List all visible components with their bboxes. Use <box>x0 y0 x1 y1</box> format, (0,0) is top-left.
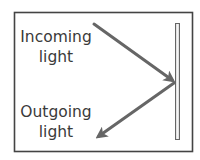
outgoing-light-label-line1: Outgoing <box>20 103 91 121</box>
reflection-diagram: Incoming light Outgoing light <box>0 0 200 160</box>
incoming-light-label-line2: light <box>39 48 73 66</box>
mirror <box>176 24 180 140</box>
incoming-light-label-line1: Incoming <box>20 28 91 46</box>
outgoing-light-label-line2: light <box>39 123 73 141</box>
